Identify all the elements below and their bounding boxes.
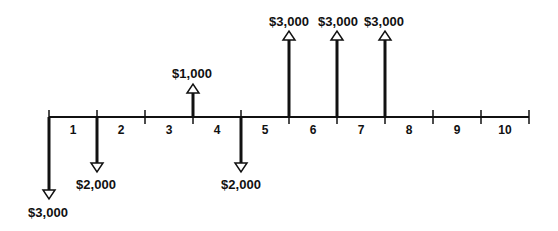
inflow-arrow-t3: $1,000 — [172, 66, 212, 117]
period-label-6: 6 — [310, 123, 317, 137]
arrowhead-down-icon — [235, 163, 247, 172]
arrowhead-down-icon — [43, 190, 55, 199]
inflow-arrow-t7: $3,000 — [364, 14, 404, 117]
arrowhead-up-icon — [283, 31, 295, 40]
period-label-10: 10 — [498, 123, 512, 137]
inflow-arrow-t5: $3,000 — [269, 14, 309, 117]
period-label-8: 8 — [406, 123, 413, 137]
period-label-2: 2 — [118, 123, 125, 137]
arrowhead-up-icon — [379, 31, 391, 40]
arrowhead-down-icon — [91, 163, 103, 172]
period-label-9: 9 — [454, 123, 461, 137]
cash-flow-label-t1: $2,000 — [76, 177, 116, 192]
cash-flow-label-t6: $3,000 — [318, 14, 358, 29]
arrowhead-up-icon — [187, 84, 199, 93]
cash-flow-diagram: 1 2 3 4 5 6 7 8 9 10 $3,000 $2,000 $1,00… — [0, 0, 558, 231]
cash-flow-label-t7: $3,000 — [364, 14, 404, 29]
period-label-4: 4 — [214, 123, 221, 137]
period-labels: 1 2 3 4 5 6 7 8 9 10 — [70, 123, 512, 137]
arrowhead-up-icon — [331, 31, 343, 40]
period-label-7: 7 — [358, 123, 365, 137]
cash-flow-label-t4: $2,000 — [221, 177, 261, 192]
cash-flow-label-t5: $3,000 — [269, 14, 309, 29]
period-label-5: 5 — [262, 123, 269, 137]
period-label-1: 1 — [70, 123, 77, 137]
cash-flow-label-t0: $3,000 — [28, 205, 68, 220]
outflow-arrow-t0: $3,000 — [28, 117, 68, 220]
outflow-arrow-t4: $2,000 — [221, 117, 261, 192]
period-label-3: 3 — [166, 123, 173, 137]
inflow-arrow-t6: $3,000 — [318, 14, 358, 117]
cash-flow-label-t3: $1,000 — [172, 66, 212, 81]
outflow-arrow-t1: $2,000 — [76, 117, 116, 192]
